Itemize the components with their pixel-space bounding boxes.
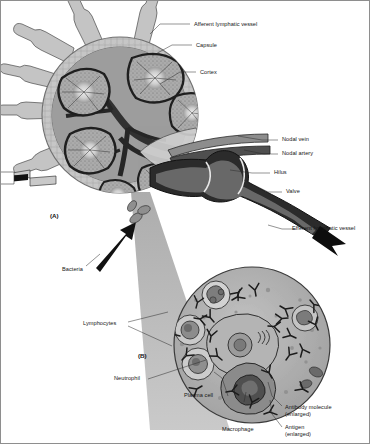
panel-label-a: (A): [50, 212, 59, 219]
efferent-lymphatic-vessel: [150, 151, 346, 256]
label-hilus: Hilus: [274, 169, 287, 176]
neutrophil-cell: [202, 281, 230, 309]
bacteria-arrow: [0, 170, 56, 186]
label-antigen: Antigen: [285, 424, 304, 431]
label-antibody-molecule: Antibody molecule: [285, 404, 332, 411]
label-nodal-vein: Nodal vein: [282, 136, 309, 143]
macrophage-cell: [221, 363, 276, 414]
label-nodal-artery: Nodal artery: [282, 150, 313, 157]
bacteria-entry-arrow: [96, 222, 136, 272]
label-plasma-cell: Plasma cell: [184, 392, 213, 399]
label-macrophage: Macrophage: [222, 426, 254, 433]
label-capsule: Capsule: [196, 42, 217, 49]
lymph-node-figure: Afferent lymphatic vessel Capsule Cortex…: [0, 0, 370, 444]
label-lymphocytes: Lymphocytes: [83, 320, 116, 327]
figure-artwork: [0, 0, 370, 444]
label-afferent-lymphatic-vessel: Afferent lymphatic vessel: [194, 21, 257, 28]
panel-label-b: (B): [138, 352, 147, 359]
label-antibody-molecule-note: (enlarged): [285, 411, 311, 418]
label-bacteria: Bacteria: [62, 266, 83, 273]
label-efferent-lymphatic-vessel: Efferent lymphatic vessel: [292, 225, 355, 232]
label-antigen-note: (enlarged): [285, 431, 311, 438]
label-valve: Valve: [286, 188, 300, 195]
label-cortex: Cortex: [200, 69, 217, 76]
label-neutrophil: Neutrophil: [114, 375, 140, 382]
